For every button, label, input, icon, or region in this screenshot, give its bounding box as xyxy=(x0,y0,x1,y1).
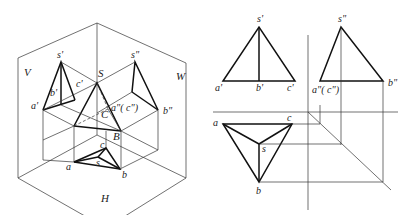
side-label-ac: a"( c") xyxy=(312,84,340,96)
top-label-a: a xyxy=(213,117,218,128)
label-c-prime: c' xyxy=(76,78,83,89)
point-label-C: C xyxy=(101,108,109,120)
label-ac-double-prime: a"( c") xyxy=(111,102,139,114)
front-label-a: a' xyxy=(215,82,223,93)
plane-label-h: H xyxy=(100,192,110,204)
label-a: a xyxy=(66,161,71,172)
side-label-s: s" xyxy=(338,13,347,24)
point-label-S: S xyxy=(98,67,104,79)
top-view xyxy=(223,124,383,182)
side-view xyxy=(320,27,383,182)
three-view-drawing: s' a' b' c' s" a"( c") b" a c s b xyxy=(213,13,398,210)
top-label-s: s xyxy=(262,143,266,154)
front-label-s: s' xyxy=(257,13,264,24)
plane-label-w: W xyxy=(176,70,186,82)
front-label-c: c' xyxy=(287,82,294,93)
label-b-double-prime: b" xyxy=(163,105,173,116)
h-plane-projection xyxy=(43,148,158,169)
label-a-prime: a' xyxy=(31,100,39,111)
label-c: c xyxy=(100,139,105,150)
axonometric-view: V W H S B C s' a' b' c' s" a"( c") b" a … xyxy=(18,23,186,215)
label-s: s xyxy=(96,157,100,168)
label-b-prime: b' xyxy=(50,87,58,98)
top-label-c: c xyxy=(287,112,292,123)
v-plane-projection xyxy=(43,62,97,110)
top-label-b: b xyxy=(256,185,261,196)
front-label-b: b' xyxy=(256,82,264,93)
point-label-B: B xyxy=(113,130,120,142)
projection-diagram: V W H S B C s' a' b' c' s" a"( c") b" a … xyxy=(0,0,404,215)
label-b: b xyxy=(122,169,127,180)
front-view xyxy=(223,27,295,81)
side-label-b: b" xyxy=(388,77,398,88)
label-s-double-prime: s" xyxy=(131,49,140,60)
45-degree-line xyxy=(308,112,391,190)
label-s-prime: s' xyxy=(57,49,64,60)
plane-label-v: V xyxy=(24,66,32,78)
